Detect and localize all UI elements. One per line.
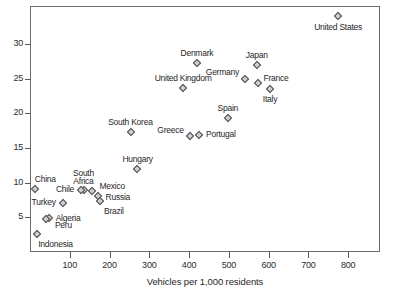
y-tick-label: 20 — [3, 107, 23, 117]
data-point-marker — [334, 12, 342, 20]
data-point-label: South Africa — [70, 169, 96, 186]
x-tick-mark — [348, 252, 349, 258]
data-point-marker — [224, 114, 232, 122]
x-tick-label: 700 — [293, 260, 323, 270]
x-tick-label: 300 — [134, 260, 164, 270]
data-point-marker — [186, 131, 194, 139]
data-point-marker — [58, 199, 66, 207]
x-tick-mark — [149, 252, 150, 258]
data-point-label: France — [264, 74, 289, 83]
x-tick-mark — [229, 252, 230, 258]
data-point-marker — [253, 79, 261, 87]
x-tick-label: 800 — [333, 260, 363, 270]
y-tick-label: 5 — [3, 211, 23, 221]
x-tick-mark — [308, 252, 309, 258]
scatter-chart: 51015202530 100200300400500600700800 Uni… — [0, 0, 410, 295]
data-point-marker — [193, 59, 201, 67]
data-point-label: United States — [314, 23, 362, 32]
x-tick-mark — [70, 252, 71, 258]
data-point-marker — [241, 75, 249, 83]
data-point-label: United Kingdom — [155, 74, 212, 83]
data-point-label: Brazil — [104, 207, 124, 216]
data-point-marker — [179, 84, 187, 92]
y-tick-label: 10 — [3, 177, 23, 187]
x-tick-label: 200 — [95, 260, 125, 270]
y-tick-mark — [25, 44, 31, 45]
data-point-label: Portugal — [206, 130, 236, 139]
y-tick-label: 25 — [3, 73, 23, 83]
x-tick-label: 400 — [174, 260, 204, 270]
data-point-marker — [252, 61, 260, 69]
data-point-label: Spain — [218, 104, 239, 113]
y-tick-label: 15 — [3, 142, 23, 152]
x-tick-mark — [189, 252, 190, 258]
data-point-marker — [266, 85, 274, 93]
data-point-marker — [31, 185, 39, 193]
y-tick-mark — [25, 113, 31, 114]
y-tick-mark — [25, 79, 31, 80]
x-tick-mark — [269, 252, 270, 258]
data-point-label: Denmark — [181, 49, 214, 58]
x-tick-label: 100 — [55, 260, 85, 270]
data-point-label: Italy — [263, 95, 277, 104]
data-point-label: Peru — [55, 221, 72, 230]
data-point-label: Indonesia — [38, 240, 73, 249]
data-point-label: South Korea — [108, 118, 153, 127]
plot-data-layer: 51015202530 100200300400500600700800 Uni… — [30, 6, 380, 252]
data-point-label: Japan — [246, 51, 268, 60]
data-point-label: Mexico — [99, 182, 124, 191]
y-tick-mark — [25, 217, 31, 218]
data-point-label: Greece — [157, 126, 183, 135]
y-tick-mark — [25, 148, 31, 149]
data-point-marker — [195, 131, 203, 139]
data-point-label: Chile — [56, 185, 74, 194]
x-tick-label: 500 — [214, 260, 244, 270]
data-point-marker — [126, 128, 134, 136]
x-axis-title: Vehicles per 1,000 residents — [0, 276, 410, 287]
data-point-marker — [96, 197, 104, 205]
data-point-marker — [133, 165, 141, 173]
x-tick-label: 600 — [254, 260, 284, 270]
data-point-label: Russia — [106, 193, 130, 202]
x-tick-mark — [110, 252, 111, 258]
data-point-label: China — [35, 175, 56, 184]
data-point-label: Hungary — [122, 155, 152, 164]
data-point-marker — [33, 230, 41, 238]
data-point-label: Turkey — [32, 198, 56, 207]
y-tick-label: 30 — [3, 38, 23, 48]
y-tick-mark — [25, 183, 31, 184]
